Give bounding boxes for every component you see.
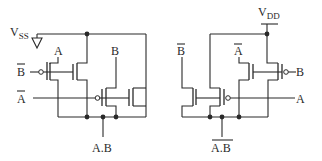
input-a-label: A bbox=[296, 92, 305, 106]
input-b-bar-label: B bbox=[17, 65, 25, 79]
t6-source bbox=[210, 34, 220, 88]
vss-label: VSS bbox=[10, 25, 29, 41]
output-label: A.B bbox=[92, 141, 112, 155]
t5-source bbox=[182, 57, 193, 88]
t2-drain bbox=[77, 34, 87, 63]
left-circuit: VSS A B A B bbox=[10, 25, 146, 155]
t3-inversion-bubble bbox=[95, 96, 100, 101]
junction-dot bbox=[208, 115, 213, 120]
input-b-label: B bbox=[111, 44, 119, 58]
input-a-bar-label: A bbox=[17, 92, 26, 106]
t1-inversion-bubble bbox=[39, 70, 44, 75]
junction-dot bbox=[114, 115, 119, 120]
t8-inversion-bubble bbox=[284, 70, 289, 75]
t8-source bbox=[267, 34, 278, 63]
circuit-diagram: VSS A B A B bbox=[0, 0, 322, 161]
right-circuit: VDD B A A B bbox=[177, 5, 305, 155]
input-b-label: B bbox=[296, 65, 304, 79]
t5-drain bbox=[182, 106, 193, 117]
ground-triangle-icon bbox=[32, 38, 42, 48]
t1-source bbox=[50, 57, 58, 64]
output-label: A.B bbox=[211, 141, 231, 155]
input-b-bar-label: B bbox=[177, 44, 185, 58]
t6-inversion-bubble bbox=[226, 96, 231, 101]
vdd-label: VDD bbox=[258, 5, 280, 21]
input-a-label: A bbox=[54, 44, 63, 58]
t3-source bbox=[106, 57, 116, 88]
input-a-bar-label: A bbox=[234, 44, 243, 58]
junction-dot bbox=[237, 115, 242, 120]
junction-dot bbox=[85, 115, 90, 120]
